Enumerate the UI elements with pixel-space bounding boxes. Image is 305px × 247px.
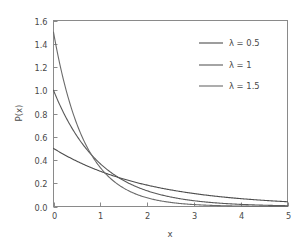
- data-series-group: [54, 32, 288, 206]
- axes-frame: [54, 21, 288, 207]
- x-tick-label: 2: [145, 211, 150, 221]
- legend-label-0: λ = 0.5: [229, 38, 260, 48]
- y-axis-tick-labels: 0.00.20.40.60.81.01.21.41.6: [34, 17, 47, 213]
- y-tick-label: 1.4: [34, 40, 47, 50]
- y-tick-label: 1.2: [34, 63, 47, 73]
- y-axis-title: P(x): [14, 105, 24, 122]
- y-tick-label: 0.6: [34, 133, 47, 143]
- y-tick-label: 0.8: [34, 110, 47, 120]
- legend-label-1: λ = 1: [229, 60, 252, 70]
- x-tick-label: 3: [192, 211, 197, 221]
- legend-label-2: λ = 1.5: [229, 81, 260, 91]
- series-line-1: [54, 90, 288, 205]
- x-tick-label: 4: [239, 211, 244, 221]
- y-tick-label: 0.4: [34, 156, 47, 166]
- x-axis-tick-labels: 012345: [52, 211, 291, 221]
- chart-legend: λ = 0.5λ = 1λ = 1.5: [199, 38, 260, 91]
- y-tick-label: 1.6: [34, 17, 47, 27]
- series-line-2: [54, 32, 288, 206]
- plot-area: 012345 0.00.20.40.60.81.01.21.41.6 x P(x…: [0, 0, 305, 247]
- y-tick-label: 0.0: [34, 203, 47, 213]
- y-tick-label: 0.2: [34, 179, 47, 189]
- x-tick-label: 0: [52, 211, 57, 221]
- series-line-0: [54, 148, 288, 201]
- x-axis-title: x: [167, 229, 172, 239]
- x-tick-label: 1: [98, 211, 103, 221]
- y-tick-label: 1.0: [34, 86, 47, 96]
- chart-figure: 012345 0.00.20.40.60.81.01.21.41.6 x P(x…: [0, 0, 305, 247]
- x-tick-label: 5: [286, 211, 291, 221]
